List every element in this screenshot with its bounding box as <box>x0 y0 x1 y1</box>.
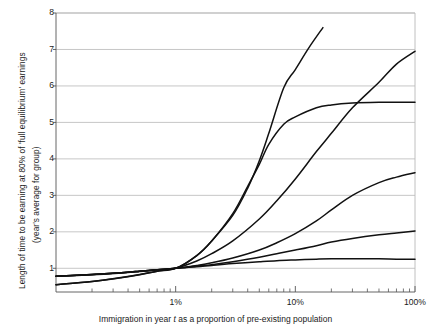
x-axis-label: Immigration in year t as a proportion of… <box>0 314 431 324</box>
series-line-steepest-curve <box>56 28 323 285</box>
plot-area <box>0 0 431 334</box>
x-axis-label-pre: Immigration in year <box>99 314 174 324</box>
series-line-sigmoid-plateau-curve <box>56 102 415 276</box>
series-line-shallow-curve <box>56 231 415 276</box>
x-axis-label-post: as a proportion of pre-existing populati… <box>176 314 332 324</box>
chart-container: Length of time to be earning at 80% of '… <box>0 0 431 334</box>
